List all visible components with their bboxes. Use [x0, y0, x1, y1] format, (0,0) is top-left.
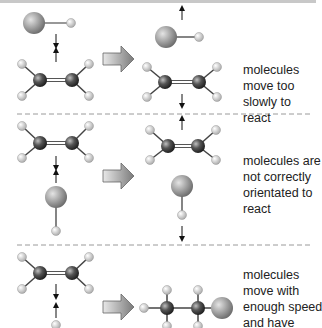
caption-success: molecules move with enough speed and hav…: [243, 267, 318, 328]
caption-line: orientated to: [243, 185, 318, 201]
transition-arrow: [103, 46, 134, 72]
panel-orientation: [18, 118, 221, 239]
ethene-molecule: [146, 126, 221, 165]
caption-line: move with: [243, 283, 318, 299]
hydrogen-halide-molecule: [45, 186, 67, 236]
hydrogen-halide-molecule: [155, 26, 204, 48]
hydrogen-halide-molecule: [23, 12, 76, 34]
caption-line: molecules are: [243, 153, 318, 169]
caption-slow: molecules move too slowly to react: [243, 62, 318, 126]
transition-arrow: [103, 294, 134, 320]
caption-line: not correctly: [243, 169, 318, 185]
caption-line: slowly to: [243, 94, 318, 110]
caption-line: molecules: [243, 267, 318, 283]
ethene-molecule: [18, 60, 94, 101]
caption-line: and have: [243, 315, 318, 328]
caption-line: molecules: [243, 62, 318, 78]
halogen-atom: [23, 12, 45, 34]
caption-line: react: [243, 201, 318, 217]
panel-success: [18, 253, 234, 328]
caption-line: enough speed: [243, 299, 318, 315]
transition-arrow: [103, 163, 134, 189]
caption-orientation: molecules are not correctly orientated t…: [243, 153, 318, 217]
haloalkane-molecule: [140, 286, 234, 328]
hydrogen-atom: [67, 19, 76, 28]
panel-slow: [18, 8, 222, 106]
hydrogen-atom: [52, 321, 61, 328]
hydrogen-halide-molecule: [171, 175, 193, 220]
caption-line: react: [243, 110, 318, 126]
caption-line: move too: [243, 78, 318, 94]
